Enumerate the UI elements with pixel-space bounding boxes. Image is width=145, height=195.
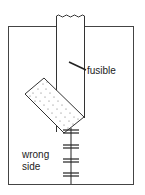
dotted-fusible-piece xyxy=(25,78,84,133)
fusible-pointer xyxy=(69,62,86,70)
wrong-side-label-line2: side xyxy=(22,161,41,172)
stitch-line xyxy=(63,128,79,184)
sewing-diagram: fusible wrong side xyxy=(0,0,145,195)
torn-edge xyxy=(57,15,85,17)
wrong-side-label-line1: wrong xyxy=(21,149,49,160)
fusible-label: fusible xyxy=(87,65,116,76)
